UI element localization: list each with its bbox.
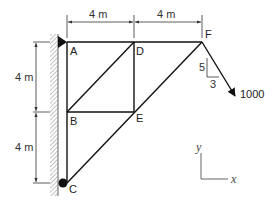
- roller-support-icon: [59, 179, 68, 188]
- node-label-d: D: [136, 45, 144, 57]
- wall-support: [50, 34, 58, 196]
- pin-support-icon: [58, 36, 67, 48]
- slope-horizontal-label: 3: [210, 78, 216, 90]
- node-label-b: B: [70, 115, 77, 127]
- node-label-c: C: [69, 183, 77, 195]
- dimension-top-right-label: 4 m: [157, 8, 175, 20]
- load-magnitude-label: 1000: [240, 88, 264, 100]
- coordinate-axes: [201, 153, 228, 179]
- node-label-f: F: [205, 28, 212, 40]
- truss-members: [67, 42, 202, 183]
- slope-vertical-label: 5: [199, 61, 205, 73]
- dimension-top: [67, 15, 202, 38]
- dimension-left-upper-label: 4 m: [15, 71, 33, 83]
- node-label-e: E: [136, 112, 143, 124]
- y-axis-label: y: [195, 140, 202, 154]
- truss-diagram: 4 m 4 m 4 m 4 m A D F B E C 5 3 1000 y x: [0, 0, 272, 205]
- dimension-left-lower-label: 4 m: [15, 141, 33, 153]
- dimension-top-left-label: 4 m: [89, 8, 107, 20]
- x-axis-label: x: [230, 172, 237, 186]
- node-label-a: A: [70, 45, 78, 57]
- dimension-left: [33, 42, 50, 183]
